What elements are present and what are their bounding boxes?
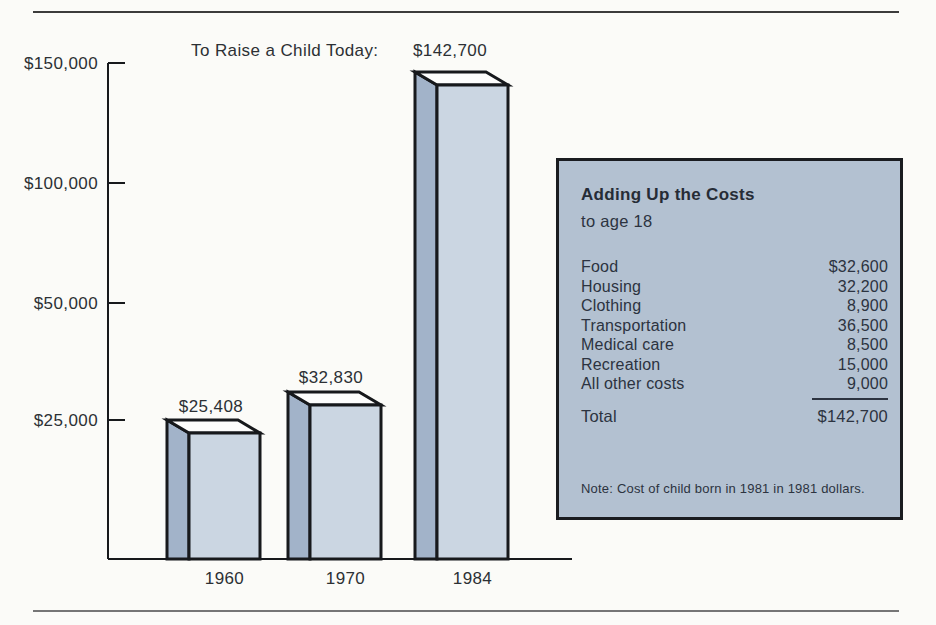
- cost-row-2: Clothing8,900: [581, 296, 888, 316]
- cost-label: Food: [581, 257, 618, 277]
- total-value: $142,700: [818, 407, 888, 426]
- cost-row-5: Recreation15,000: [581, 355, 888, 375]
- y-tick-label-3: $150,000: [24, 54, 98, 73]
- cost-value: 8,900: [847, 296, 888, 316]
- panel-subtitle: to age 18: [581, 212, 888, 231]
- cost-row-6: All other costs9,000: [581, 374, 888, 394]
- bar-front-face: [437, 85, 508, 559]
- cost-label: All other costs: [581, 374, 684, 394]
- bar-value-label-2: $142,700: [413, 41, 487, 60]
- cost-value: 9,000: [847, 374, 888, 394]
- panel-title: Adding Up the Costs: [581, 185, 888, 205]
- cost-row-4: Medical care8,500: [581, 335, 888, 355]
- cost-label: Transportation: [581, 316, 686, 336]
- y-tick-label-1: $50,000: [34, 294, 98, 313]
- y-tick-label-0: $25,000: [34, 411, 98, 430]
- bar-front-face: [189, 433, 260, 559]
- bar-side-face: [415, 72, 437, 559]
- cost-row-1: Housing32,200: [581, 277, 888, 297]
- costs-panel: Adding Up the Costs to age 18 Food$32,60…: [556, 158, 903, 520]
- y-tick-label-2: $100,000: [24, 174, 98, 193]
- cost-label: Clothing: [581, 296, 641, 316]
- cost-value: 15,000: [838, 355, 888, 375]
- cost-row-0: Food$32,600: [581, 257, 888, 277]
- bar-side-face: [288, 392, 310, 559]
- x-axis-label-2: 1984: [453, 569, 492, 588]
- cost-value: 32,200: [838, 277, 888, 297]
- x-axis-label-0: 1960: [205, 569, 244, 588]
- cost-value: 36,500: [838, 316, 888, 336]
- total-label: Total: [581, 407, 617, 426]
- cost-value: 8,500: [847, 335, 888, 355]
- bar-front-face: [310, 405, 381, 559]
- cost-label: Medical care: [581, 335, 674, 355]
- bar-value-label-1: $32,830: [299, 368, 363, 387]
- cost-rows: Food$32,600Housing32,200Clothing8,900Tra…: [581, 257, 888, 394]
- chart-title: To Raise a Child Today:: [191, 41, 378, 60]
- panel-note: Note: Cost of child born in 1981 in 1981…: [581, 481, 888, 496]
- bar-side-face: [167, 420, 189, 559]
- bar-1960: [167, 420, 260, 559]
- cost-row-3: Transportation36,500: [581, 316, 888, 336]
- bar-value-label-0: $25,408: [179, 397, 243, 416]
- bar-1984: [415, 72, 508, 559]
- total-row: Total $142,700: [581, 407, 888, 426]
- bar-1970: [288, 392, 381, 559]
- x-axis-label-1: 1970: [326, 569, 365, 588]
- cost-value: $32,600: [829, 257, 888, 277]
- page: $25,000$50,000$100,000$150,000To Raise a…: [0, 0, 936, 625]
- cost-label: Recreation: [581, 355, 660, 375]
- sum-line: [812, 398, 888, 400]
- cost-label: Housing: [581, 277, 641, 297]
